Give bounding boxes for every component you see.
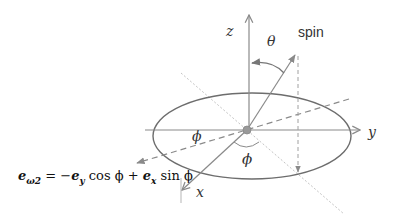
z-axis-label: z [225,23,234,39]
y-axis-label: y [367,124,377,140]
eq-term2-symbol: e [143,168,151,183]
phi-label-left: ϕ [192,128,202,144]
dotted-diagonal-line [181,73,344,214]
spin-label: spin [298,24,324,40]
phi-label-bottom: ϕ [242,150,252,168]
x-axis-label: x [196,184,204,200]
eq-term2-func: sin ϕ [156,168,192,183]
eq-equals: = − [41,168,71,183]
eq-lhs-subscript: ω2 [26,176,41,186]
origin-dot [243,126,251,134]
theta-label: θ [267,33,276,49]
eq-term1-func: cos ϕ + [85,168,143,183]
phi-arc [234,142,259,147]
spin-axes-diagram: z θ spin y x ϕ ϕ [0,0,394,219]
e-omega2-equation: eω2 = −ey cos ϕ + ex sin ϕ [18,168,193,186]
theta-arc [252,62,284,73]
